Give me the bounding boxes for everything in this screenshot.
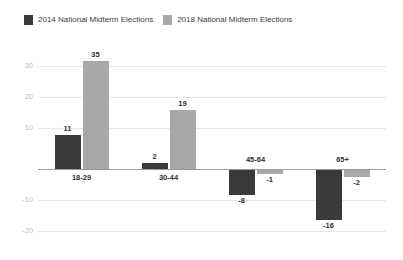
bar-2018-30-44[interactable] <box>170 110 196 169</box>
legend-swatch-2014 <box>24 15 33 25</box>
bar-value-2014-65-plus: -16 <box>323 222 334 230</box>
legend-swatch-2018 <box>163 15 172 25</box>
ytick-label-minus-10: -10 <box>22 196 33 204</box>
bar-2014-65-plus[interactable] <box>316 170 342 220</box>
bar-value-2014-45-64: -8 <box>238 197 245 205</box>
bar-value-2018-45-64: -1 <box>266 176 273 184</box>
bar-value-2018-30-44: 19 <box>178 100 186 108</box>
bar-2018-45-64[interactable] <box>257 170 283 174</box>
bar-slot-2014-45-64: -8 <box>229 60 255 232</box>
bar-slot-2014-65-plus: -16 <box>316 60 342 232</box>
plot-area: 30 20 10 -10 -20 11 35 18-29 <box>38 60 386 232</box>
category-label-45-64: 45-64 <box>246 156 265 164</box>
bar-slot-2018-18-29: 35 <box>83 60 109 232</box>
ytick-label-10: 10 <box>25 124 33 132</box>
bar-slot-2014-18-29: 11 <box>55 60 81 232</box>
bar-slot-2014-30-44: 2 <box>142 60 168 232</box>
ytick-label-minus-20: -20 <box>22 227 33 235</box>
legend-item-2018[interactable]: 2018 National Midterm Elections <box>163 15 292 25</box>
chart-legend: 2014 National Midterm Elections 2018 Nat… <box>24 14 292 26</box>
ytick-label-30: 30 <box>25 62 33 70</box>
bar-group-30-44: 2 19 30-44 <box>125 60 212 232</box>
legend-item-2014[interactable]: 2014 National Midterm Elections <box>24 15 153 25</box>
bar-group-65-plus: -16 -2 65+ <box>299 60 386 232</box>
bar-chart: 2014 National Midterm Elections 2018 Nat… <box>0 0 403 260</box>
bar-2018-65-plus[interactable] <box>344 170 370 177</box>
bar-2018-18-29[interactable] <box>83 61 109 169</box>
category-label-65-plus: 65+ <box>336 156 349 164</box>
bar-value-2018-18-29: 35 <box>91 51 99 59</box>
legend-label-2018: 2018 National Midterm Elections <box>177 15 292 25</box>
bar-groups: 11 35 18-29 2 19 30-44 <box>38 60 386 232</box>
bar-value-2014-18-29: 11 <box>64 125 72 133</box>
bar-2014-18-29[interactable] <box>55 135 81 169</box>
bar-value-2018-65-plus: -2 <box>353 179 360 187</box>
ytick-label-20: 20 <box>25 93 33 101</box>
bar-slot-2018-65-plus: -2 <box>344 60 370 232</box>
bar-slot-2018-45-64: -1 <box>257 60 283 232</box>
bar-2014-30-44[interactable] <box>142 163 168 169</box>
legend-label-2014: 2014 National Midterm Elections <box>38 15 153 25</box>
bar-group-18-29: 11 35 18-29 <box>38 60 125 232</box>
category-label-18-29: 18-29 <box>72 174 91 182</box>
category-label-30-44: 30-44 <box>159 174 178 182</box>
bar-slot-2018-30-44: 19 <box>170 60 196 232</box>
bar-2014-45-64[interactable] <box>229 170 255 195</box>
bar-value-2014-30-44: 2 <box>152 153 156 161</box>
bar-group-45-64: -8 -1 45-64 <box>212 60 299 232</box>
